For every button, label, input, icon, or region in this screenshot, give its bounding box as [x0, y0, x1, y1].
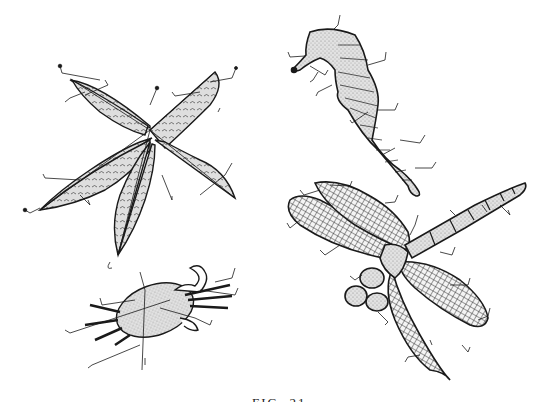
plate-drawing [0, 0, 542, 402]
crab-figure [85, 266, 232, 347]
figure-caption: FIG. 21 [252, 396, 306, 402]
leaf-figure [40, 72, 235, 255]
seahorse-figure [292, 29, 420, 196]
illustration-plate: FIG. 21 [0, 0, 542, 402]
dragonfly-figure [288, 182, 525, 380]
